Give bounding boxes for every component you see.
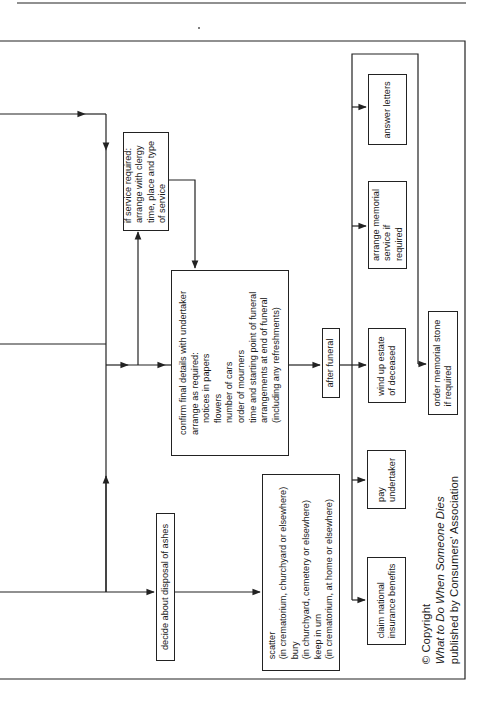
decide-ashes-box: decide about disposal of ashes <box>156 513 175 661</box>
after-funeral-box: after funeral <box>322 328 340 398</box>
confirm-details-box: confirm final details with undertaker ar… <box>171 270 289 456</box>
wind-up-estate-box: wind up estate of deceased <box>368 328 406 403</box>
after-funeral-label: after funeral <box>325 338 336 387</box>
answer-letters-box: answer letters <box>368 74 407 145</box>
order-memorial-stone-box: order memorial stone if required <box>428 311 458 415</box>
copyright-block: © Copyright What to Do When Someone Dies… <box>418 470 462 670</box>
wind-up-estate-text: wind up estate of deceased <box>376 336 399 395</box>
arrange-memorial-box: arrange memorial service if required <box>368 181 407 269</box>
copyright-text: © Copyright What to Do When Someone Dies… <box>419 476 461 664</box>
claim-insurance-box: claim national insurance benefits <box>367 557 406 645</box>
decide-ashes-label: decide about disposal of ashes <box>160 524 171 650</box>
claim-insurance-text: claim national insurance benefits <box>375 564 398 639</box>
pay-undertaker-box: pay undertaker <box>367 450 406 509</box>
confirm-details-text: confirm final details with undertaker ar… <box>178 291 282 435</box>
arrange-memorial-text: arrange memorial service if required <box>370 189 404 261</box>
service-required-box: if service required: arrange with clergy… <box>123 132 169 231</box>
pay-undertaker-text: pay undertaker <box>375 458 398 502</box>
service-required-text: if service required: arrange with clergy… <box>123 140 169 222</box>
ashes-options-box: scatter (in crematorium, churchyard or e… <box>262 474 340 671</box>
answer-letters-label: answer letters <box>382 81 393 138</box>
order-memorial-stone-text: order memorial stone if required <box>432 320 455 407</box>
ashes-options-text: scatter (in crematorium, churchyard or e… <box>267 486 335 659</box>
speck <box>198 27 200 29</box>
